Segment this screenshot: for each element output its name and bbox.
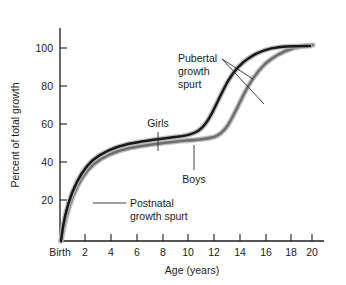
- postnatal-label-line2: growth spurt: [130, 210, 188, 222]
- x-tick-label-12: 12: [208, 246, 220, 258]
- x-tick-label-2: 2: [82, 246, 88, 258]
- x-tick-label-birth: Birth: [49, 246, 71, 258]
- chart-canvas: 100 80 60 40 20 Birth 2 4 6 8 10 12 14 1…: [0, 0, 346, 285]
- pubertal-label-line2: growth: [178, 65, 210, 77]
- x-tick-label-20: 20: [306, 246, 318, 258]
- growth-chart: 100 80 60 40 20 Birth 2 4 6 8 10 12 14 1…: [0, 0, 346, 285]
- y-tick-label-20: 20: [41, 194, 53, 206]
- y-axis-ticks: [60, 48, 67, 200]
- x-tick-label-8: 8: [160, 246, 166, 258]
- y-tick-label-80: 80: [41, 80, 53, 92]
- x-axis-title: Age (years): [165, 264, 219, 276]
- x-tick-label-14: 14: [234, 246, 246, 258]
- x-tick-label-18: 18: [285, 246, 297, 258]
- x-tick-label-10: 10: [182, 246, 194, 258]
- boys-label: Boys: [182, 173, 205, 185]
- x-axis-ticks: [60, 234, 312, 241]
- x-tick-label-6: 6: [134, 246, 140, 258]
- pubertal-label-line3: spurt: [178, 78, 201, 90]
- pubertal-label-line1: Pubertal: [178, 52, 217, 64]
- girls-label: Girls: [147, 117, 169, 129]
- x-tick-label-4: 4: [108, 246, 114, 258]
- x-tick-label-16: 16: [260, 246, 272, 258]
- y-tick-label-100: 100: [35, 42, 53, 54]
- postnatal-label-line1: Postnatal: [130, 197, 174, 209]
- y-axis-title: Percent of total growth: [9, 82, 21, 187]
- y-tick-label-40: 40: [41, 156, 53, 168]
- y-tick-label-60: 60: [41, 118, 53, 130]
